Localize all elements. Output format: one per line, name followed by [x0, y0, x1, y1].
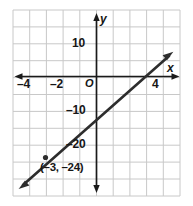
marked-point: [43, 155, 48, 160]
coordinate-plane-svg: [0, 0, 193, 206]
x-tick-minus-2: –2: [50, 78, 63, 90]
point-coordinate-label: (–3, –24): [40, 162, 83, 174]
x-tick-minus-4: –4: [17, 78, 30, 90]
x-axis-label: x: [167, 62, 173, 74]
y-tick-10: 10: [72, 37, 85, 49]
x-tick-4: 4: [152, 78, 158, 90]
y-tick-minus-10: –10: [66, 104, 85, 116]
y-axis-label: y: [100, 13, 106, 25]
y-tick-minus-20: –20: [66, 138, 85, 150]
graph-figure: y x O –4 –2 4 10 –10 –20 (–3, –24): [0, 0, 193, 206]
origin-label: O: [85, 78, 93, 89]
